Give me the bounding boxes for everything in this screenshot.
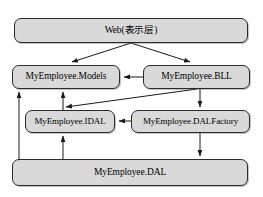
edge-web-to-models (72, 43, 131, 62)
architecture-diagram: Web(表示层) MyEmployee.Models MyEmployee.BL… (0, 0, 263, 197)
node-dalfactory[interactable]: MyEmployee.DALFactory (131, 110, 250, 133)
node-idal-label: MyEmployee.IDAL (34, 117, 105, 126)
node-dalfactory-label: MyEmployee.DALFactory (143, 117, 238, 126)
edge-web-to-bll (131, 43, 190, 62)
node-dal-label: MyEmployee.DAL (94, 168, 166, 178)
node-dal[interactable]: MyEmployee.DAL (12, 159, 248, 186)
node-models[interactable]: MyEmployee.Models (12, 65, 120, 89)
node-bll[interactable]: MyEmployee.BLL (143, 65, 250, 89)
edge-bll-to-idal (66, 89, 197, 107)
node-idal[interactable]: MyEmployee.IDAL (25, 110, 115, 133)
node-bll-label: MyEmployee.BLL (161, 72, 232, 82)
node-models-label: MyEmployee.Models (26, 72, 107, 82)
node-web-label: Web(表示层) (105, 26, 158, 36)
node-web[interactable]: Web(表示层) (14, 18, 248, 43)
